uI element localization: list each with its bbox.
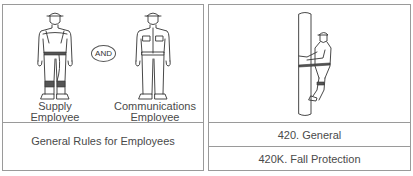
- pole-climber-illustration: [209, 5, 410, 122]
- divider: [209, 146, 410, 147]
- general-rules-caption: General Rules for Employees: [3, 135, 203, 147]
- communications-employee-label: Communications Employee: [113, 101, 197, 123]
- divider: [209, 122, 410, 123]
- pole-climber-icon: [295, 10, 335, 118]
- supply-employee-label: Supply Employee: [25, 101, 85, 123]
- employee-illustrations: AND Supply Employee Communications Emplo…: [3, 5, 203, 122]
- fall-protection-panel: 420. General 420K. Fall Protection: [208, 4, 411, 171]
- communications-employee-icon: [133, 9, 173, 103]
- and-connector: AND: [91, 45, 116, 62]
- section-420k-fall-protection: 420K. Fall Protection: [209, 153, 410, 165]
- general-rules-panel: AND Supply Employee Communications Emplo…: [2, 4, 204, 171]
- section-420-general: 420. General: [209, 129, 410, 141]
- divider: [3, 122, 203, 123]
- supply-employee-icon: [35, 9, 75, 103]
